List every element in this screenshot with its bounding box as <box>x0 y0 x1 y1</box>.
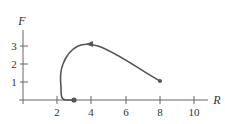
x-tick-label-4: 4 <box>88 106 94 118</box>
end-point-dot <box>71 97 76 102</box>
x-tick-label-6: 6 <box>123 106 129 118</box>
y-ticks <box>20 46 28 82</box>
x-tick-label-2: 2 <box>54 106 60 118</box>
start-point-dot <box>158 79 162 83</box>
x-tick-label-10: 10 <box>189 106 201 118</box>
phase-plot: 1 2 3 2 4 6 8 10 F R <box>0 0 225 124</box>
y-tick-label-2: 2 <box>11 58 17 70</box>
y-axis-label: F <box>17 14 26 28</box>
y-tick-label-1: 1 <box>11 76 17 88</box>
y-tick-label-3: 3 <box>11 40 17 52</box>
x-tick-label-8: 8 <box>157 106 163 118</box>
x-axis-label: R <box>212 93 221 107</box>
arrow-icon <box>86 41 93 47</box>
trajectory-curve <box>60 44 160 100</box>
